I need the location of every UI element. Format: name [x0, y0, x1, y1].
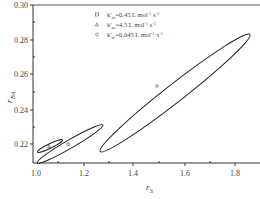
svg-text:BA: BA	[10, 91, 16, 99]
svg-text:k'ac=0.045 L mol-1·s-1: k'ac=0.045 L mol-1·s-1	[107, 31, 163, 40]
x-tick-label: 1.0	[31, 169, 41, 178]
y-tick-label: 0.22	[14, 140, 28, 149]
x-tick-label: 1.8	[230, 169, 240, 178]
y-tick-label: 0.26	[14, 70, 28, 79]
svg-text:k'ac=4.5 L mol-1 s-1: k'ac=4.5 L mol-1 s-1	[107, 21, 156, 30]
triangle-marker-icon	[95, 23, 98, 26]
x-axis-title: r S	[146, 182, 153, 194]
legend-item-045: k'ac=0.45 L mol-1 s-1	[96, 11, 160, 20]
y-tick-label: 0.28	[14, 36, 28, 45]
x-tick-label: 1.2	[79, 169, 89, 178]
y-tick-label: 0.24	[14, 106, 28, 115]
svg-text:S: S	[150, 188, 153, 194]
y-axis-title: r BA	[4, 91, 16, 103]
x-tick-label: 1.4	[128, 169, 138, 178]
y-tick-label: 0.30	[14, 1, 28, 10]
square-marker-icon	[96, 13, 99, 16]
svg-text:k'ac=0.45 L mol-1 s-1: k'ac=0.45 L mol-1 s-1	[107, 11, 159, 20]
confidence-ellipse-045	[35, 121, 105, 166]
confidence-ellipse-0045	[95, 27, 256, 158]
marker-square-045	[67, 143, 69, 145]
marker-triangle-45	[48, 145, 51, 147]
chart-canvas: 0.30 0.28 0.26 0.24 0.22 1.0 1.2 1.4 1.6…	[0, 0, 260, 199]
marker-circle-0045	[156, 85, 159, 88]
circle-marker-icon	[96, 33, 99, 36]
legend-item-0045: k'ac=0.045 L mol-1·s-1	[96, 31, 163, 40]
legend-item-45: k'ac=4.5 L mol-1 s-1	[95, 21, 156, 30]
x-tick-label: 1.6	[180, 169, 190, 178]
legend: k'ac=0.45 L mol-1 s-1 k'ac=4.5 L mol-1 s…	[95, 11, 163, 40]
